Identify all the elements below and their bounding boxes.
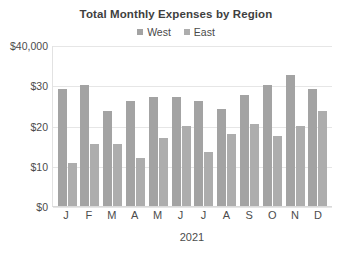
x-axis-tick-label: J	[192, 209, 214, 221]
bar-west-o-9	[263, 85, 272, 206]
y-axis-tick-label: $20	[30, 121, 48, 133]
x-axis-tick-label: A	[124, 209, 146, 221]
x-axis-tick-label: F	[78, 209, 100, 221]
bar-west-f-1	[80, 85, 89, 206]
chart-legend: West East	[0, 26, 352, 38]
x-axis-tick-label: S	[238, 209, 260, 221]
bar-east-a-3	[136, 158, 145, 206]
bar-east-j-6	[204, 152, 213, 206]
bar-group	[239, 46, 261, 206]
bar-east-j-5	[182, 126, 191, 207]
bar-group	[56, 46, 78, 206]
x-axis-tick-label: A	[215, 209, 237, 221]
bar-east-a-7	[227, 134, 236, 206]
bar-west-a-3	[126, 101, 135, 206]
bar-east-f-1	[90, 144, 99, 206]
bar-group	[193, 46, 215, 206]
y-axis: $0$10$20$30$40,000	[0, 0, 48, 264]
bar-east-n-10	[296, 126, 305, 207]
x-axis-tick-label: J	[55, 209, 77, 221]
bar-group	[170, 46, 192, 206]
bar-west-s-8	[240, 95, 249, 206]
plot-area	[52, 46, 332, 207]
bar-east-d-11	[318, 111, 327, 206]
bar-west-d-11	[308, 89, 317, 206]
legend-item-east: East	[184, 26, 215, 38]
bar-group	[124, 46, 146, 206]
y-axis-tick-label: $10	[30, 161, 48, 173]
y-axis-tick-label: $30	[30, 80, 48, 92]
bar-east-m-2	[113, 144, 122, 206]
x-axis-tick-label: J	[170, 209, 192, 221]
legend-label-west: West	[147, 26, 171, 38]
y-axis-tick-label: $0	[36, 201, 48, 213]
x-axis-tick-label: M	[147, 209, 169, 221]
legend-label-east: East	[194, 26, 215, 38]
bar-chart: Total Monthly Expenses by Region West Ea…	[0, 0, 352, 264]
x-axis-tick-label: O	[261, 209, 283, 221]
legend-item-west: West	[137, 26, 171, 38]
x-axis: JFMAMJJASOND	[52, 209, 332, 221]
bar-west-n-10	[286, 75, 295, 206]
bar-east-s-8	[250, 124, 259, 207]
legend-swatch-east	[184, 29, 190, 35]
legend-swatch-west	[137, 29, 143, 35]
bar-west-j-5	[172, 97, 181, 206]
bar-group	[284, 46, 306, 206]
bar-group	[102, 46, 124, 206]
bar-group	[261, 46, 283, 206]
x-axis-title: 2021	[52, 231, 332, 243]
bar-east-j-0	[68, 163, 77, 206]
gridline	[53, 207, 332, 208]
x-axis-tick-label: D	[307, 209, 329, 221]
bar-west-m-2	[103, 111, 112, 206]
bar-east-o-9	[273, 136, 282, 206]
bar-west-a-7	[217, 109, 226, 206]
bar-west-j-6	[194, 101, 203, 206]
bar-group	[147, 46, 169, 206]
bar-group	[216, 46, 238, 206]
bar-series-container	[53, 46, 332, 206]
bar-east-m-4	[159, 138, 168, 206]
bar-west-m-4	[149, 97, 158, 206]
bar-group	[79, 46, 101, 206]
y-axis-tick-label: $40,000	[10, 40, 48, 52]
bar-west-j-0	[58, 89, 67, 206]
bar-group	[307, 46, 329, 206]
x-axis-tick-label: N	[284, 209, 306, 221]
chart-title: Total Monthly Expenses by Region	[0, 8, 352, 20]
x-axis-tick-label: M	[101, 209, 123, 221]
